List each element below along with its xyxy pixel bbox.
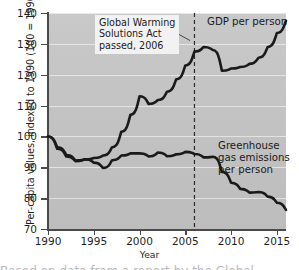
gridline	[48, 136, 286, 137]
y-tick-mark	[41, 229, 47, 230]
y-tick-mark	[41, 198, 47, 199]
annotation-callout-gws-act: Global Warming Solutions Act passed, 200…	[95, 15, 179, 54]
y-tick-mark	[41, 44, 47, 45]
y-tick-label: 70	[24, 224, 37, 235]
caption-fragment: Based on data from a report by the Globa…	[0, 265, 299, 270]
y-tick-mark	[41, 167, 47, 168]
x-tick-label: 2015	[263, 236, 290, 247]
x-axis-title: Year	[0, 250, 299, 260]
gridline	[48, 75, 286, 76]
y-tick-mark	[41, 13, 47, 14]
gridline	[48, 198, 286, 199]
y-tick-mark	[41, 75, 47, 76]
x-tick-label: 2010	[218, 236, 245, 247]
y-axis-line	[47, 12, 49, 230]
gridline	[48, 13, 286, 14]
series-label-greenhouse-gas: Greenhouse gas emissions per person	[218, 140, 290, 177]
x-tick-label: 1995	[80, 236, 107, 247]
series-label-gdp: GDP per person	[207, 16, 287, 28]
x-axis-line	[47, 229, 286, 231]
gridline	[48, 106, 286, 107]
chart-figure: 708090100110120130140 199019952000200520…	[0, 0, 299, 270]
x-tick-label: 2000	[126, 236, 153, 247]
x-tick-label: 1990	[35, 236, 62, 247]
y-axis-title: Per-capita values, indexed to 1990 (100 …	[26, 5, 36, 225]
y-tick-mark	[41, 106, 47, 107]
x-tick-label: 2005	[172, 236, 199, 247]
y-tick-mark	[41, 136, 47, 137]
